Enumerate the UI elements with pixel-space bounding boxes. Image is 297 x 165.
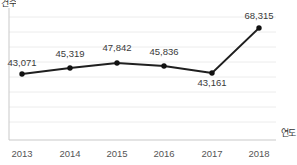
x-tick-2018: 2018 <box>239 148 279 159</box>
data-label-2016: 45,836 <box>142 46 186 57</box>
gridlines <box>9 17 276 122</box>
data-label-2014: 45,319 <box>48 48 92 59</box>
data-label-2013: 43,071 <box>0 57 44 68</box>
x-axis-title: 연도 <box>281 126 296 139</box>
data-label-2018: 68,315 <box>237 10 281 21</box>
data-point-2015[interactable] <box>114 60 119 65</box>
chart-plot-area <box>0 0 297 165</box>
x-tick-2017: 2017 <box>192 148 232 159</box>
x-tick-2014: 2014 <box>50 148 90 159</box>
x-tick-2013: 2013 <box>2 148 42 159</box>
data-label-2015: 47,842 <box>95 42 139 53</box>
line-chart: 건수 43,071 45,319 47,842 45,836 43,161 68… <box>0 0 297 165</box>
data-point-2016[interactable] <box>161 63 166 68</box>
data-point-2018[interactable] <box>256 25 261 30</box>
x-tick-2015: 2015 <box>97 148 137 159</box>
x-tick-2016: 2016 <box>144 148 184 159</box>
data-point-2014[interactable] <box>67 65 72 70</box>
data-point-2017[interactable] <box>209 70 214 75</box>
data-point-2013[interactable] <box>19 71 24 76</box>
data-label-2017: 43,161 <box>190 77 234 88</box>
